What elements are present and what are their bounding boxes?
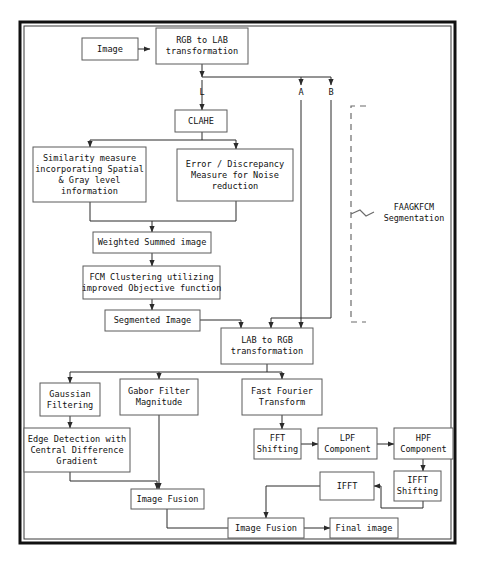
node-label-similarity: information — [61, 186, 118, 196]
node-label-hpf: Component — [400, 444, 447, 454]
node-label-fft: Fast Fourier — [251, 386, 313, 396]
node-ifftshift[interactable]: IFFTShifting — [394, 471, 441, 501]
node-fusion2[interactable]: Image Fusion — [228, 518, 304, 538]
node-label-segmented: Segmented Image — [114, 315, 192, 325]
node-fftshift[interactable]: FFTShifting — [254, 429, 301, 459]
node-fft[interactable]: Fast FourierTransform — [242, 379, 322, 415]
node-label-similarity: incorporating Spatial — [35, 164, 144, 174]
node-segmented[interactable]: Segmented Image — [105, 310, 200, 331]
node-ifft[interactable]: IFFT — [320, 472, 374, 500]
node-label-fusion2: Image Fusion — [235, 523, 297, 533]
faagkfcm-label-line: Segmentation — [384, 213, 445, 223]
connector-edge-to-fusion1 — [70, 472, 157, 481]
node-label-similarity: Similarity measure — [43, 153, 136, 163]
node-error[interactable]: Error / DiscrepancyMeasure for Noiseredu… — [177, 149, 293, 201]
node-label-weighted: Weighted Summed image — [98, 237, 207, 247]
faagkfcm-bracket-group: FAAGKFCMSegmentation — [351, 106, 444, 322]
connector-clahe-to-branch — [90, 132, 236, 140]
node-label-fcm: FCM Clustering utilizing — [89, 272, 213, 282]
node-hpf[interactable]: HPFComponent — [394, 428, 453, 459]
node-label-lpf: LPF — [340, 433, 356, 443]
channel-label-B: B — [328, 87, 333, 97]
connector-segmented-to-lab2rgb — [200, 320, 241, 328]
node-label-error: Measure for Noise — [191, 170, 279, 180]
node-label-edge: Edge Detection with — [28, 434, 126, 444]
node-label-ifft: IFFT — [337, 481, 358, 491]
node-label-hpf: HPF — [416, 433, 432, 443]
node-label-error: reduction — [212, 181, 259, 191]
node-clahe[interactable]: CLAHE — [175, 110, 227, 132]
node-label-gabor: Magnitude — [136, 397, 183, 407]
node-layer: ImageRGB to LABtransformationCLAHESimila… — [24, 28, 453, 538]
node-label-rgb2lab: transformation — [166, 46, 238, 56]
node-label-rgb2lab: RGB to LAB — [176, 35, 228, 45]
faagkfcm-label-line: FAAGKFCM — [394, 202, 434, 212]
node-fusion1[interactable]: Image Fusion — [131, 489, 204, 509]
node-label-fftshift: Shifting — [257, 444, 298, 454]
node-label-ifftshift: IFFT — [407, 475, 428, 485]
node-label-lab2rgb: transformation — [231, 346, 303, 356]
node-lab2rgb[interactable]: LAB to RGBtransformation — [221, 328, 313, 364]
node-label-gaussian: Filtering — [47, 400, 94, 410]
node-fcm[interactable]: FCM Clustering utilizingimproved Objecti… — [82, 266, 222, 299]
node-weighted[interactable]: Weighted Summed image — [93, 232, 211, 253]
channel-label-A: A — [298, 87, 304, 97]
node-label-gabor: Gabor Filter — [128, 386, 190, 396]
node-edge[interactable]: Edge Detection withCentral DifferenceGra… — [24, 428, 130, 472]
node-label-edge: Central Difference — [30, 445, 123, 455]
faagkfcm-bracket-pointer — [351, 210, 374, 216]
node-label-final: Final image — [336, 523, 393, 533]
node-label-image: Image — [97, 44, 123, 54]
node-lpf[interactable]: LPFComponent — [318, 428, 377, 459]
node-gabor[interactable]: Gabor FilterMagnitude — [120, 379, 198, 415]
channel-label-layer: LAB — [199, 87, 333, 97]
node-label-error: Error / Discrepancy — [186, 159, 284, 169]
node-label-fftshift: FFT — [270, 433, 286, 443]
flowchart-canvas: FAAGKFCMSegmentation ImageRGB to LABtran… — [0, 0, 477, 564]
node-label-ifftshift: Shifting — [397, 486, 438, 496]
node-label-clahe: CLAHE — [188, 116, 214, 126]
node-similarity[interactable]: Similarity measureincorporating Spatial&… — [33, 147, 146, 202]
node-label-fcm: improved Objective function — [82, 283, 222, 293]
node-label-fusion1: Image Fusion — [136, 494, 198, 504]
connector-ifft-to-fusion2 — [266, 486, 320, 518]
node-label-similarity: & Gray level — [58, 175, 120, 185]
connector-similarity-to-merge — [90, 202, 152, 221]
node-label-gaussian: Gaussian — [49, 389, 90, 399]
node-gaussian[interactable]: GaussianFiltering — [40, 383, 100, 416]
flowchart-svg: FAAGKFCMSegmentation ImageRGB to LABtran… — [0, 0, 477, 564]
node-rgb2lab[interactable]: RGB to LABtransformation — [156, 28, 248, 64]
node-label-lpf: Component — [324, 444, 371, 454]
node-image[interactable]: Image — [82, 38, 138, 60]
connector-lab2rgb-to-bus — [70, 364, 282, 372]
channel-label-L: L — [199, 87, 204, 97]
node-label-lab2rgb: LAB to RGB — [241, 335, 293, 345]
connector-error-to-merge — [152, 201, 236, 221]
node-final[interactable]: Final image — [330, 518, 398, 538]
node-label-fft: Transform — [259, 397, 306, 407]
node-label-edge: Gradient — [56, 456, 97, 466]
